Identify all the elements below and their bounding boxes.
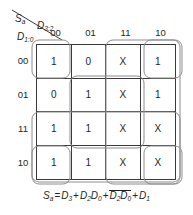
column-header-2: 11	[108, 28, 143, 38]
equation-plus-1: +	[72, 190, 80, 201]
column-header-3: 10	[143, 28, 178, 38]
kmap-cell: X	[106, 112, 141, 146]
row-header-3: 10	[12, 146, 34, 180]
equation-term-2: D2D0	[80, 190, 102, 201]
equation-term-1: D3	[61, 190, 72, 201]
kmap-cell: 1	[37, 146, 72, 180]
kmap-cell: X	[141, 112, 176, 146]
row-header-1: 01	[12, 78, 34, 112]
kmap-cell: 1	[141, 45, 176, 79]
equation-plus-3: +	[131, 190, 139, 201]
kmap-cell: 1	[141, 79, 176, 113]
equation-term-4: D1	[139, 190, 150, 201]
kmap-grid: 1 0 X 1 0 1 X 1 1 1 X X 1 1 X X	[36, 44, 176, 180]
kmap-cell: 1	[72, 112, 107, 146]
kmap-cell: 0	[72, 45, 107, 79]
kmap-cell: 1	[37, 112, 72, 146]
kmap-cell: 1	[37, 45, 72, 79]
kmap-cell: 1	[72, 146, 107, 180]
column-header-0: 00	[38, 28, 73, 38]
equation-term-3-negated-a: D2	[109, 190, 120, 202]
kmap-cell: 0	[37, 79, 72, 113]
equation-term-3: D2D0	[109, 190, 131, 201]
kmap-cell: X	[106, 79, 141, 113]
kmap-cell: X	[106, 146, 141, 180]
row-header-2: 11	[12, 112, 34, 146]
kmap-cell: X	[141, 146, 176, 180]
kmap-equation: Sa=D3+D2D0+D2D0+D1	[0, 190, 193, 202]
output-variable-label: Sa	[15, 14, 25, 24]
column-header-1: 01	[73, 28, 108, 38]
karnaugh-map-figure: Sa D3:2 D1:0 00 01 11 10 00 01 11 10 1 0…	[0, 0, 193, 215]
row-variable-label: D1:0	[17, 32, 33, 42]
equation-term-3-negated-b: D0	[120, 190, 131, 202]
kmap-cell: 1	[72, 79, 107, 113]
row-header-0: 00	[12, 44, 34, 78]
equation-lhs: Sa	[43, 190, 53, 201]
kmap-cell: X	[106, 45, 141, 79]
